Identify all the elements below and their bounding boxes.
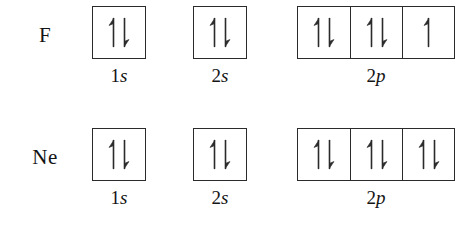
orbital-boxes — [193, 6, 247, 59]
orbital-label-2s: 2s — [193, 186, 247, 210]
electron-pair — [351, 7, 402, 58]
orbital-cell — [194, 7, 246, 58]
spin-down-arrow-icon — [220, 139, 231, 170]
orbital-cell — [93, 7, 145, 58]
orbital-cell — [350, 7, 402, 58]
orbital-label-2s: 2s — [193, 64, 247, 88]
orbital-cell — [298, 7, 350, 58]
orbital-principal-number: 1 — [111, 65, 121, 86]
orbital-group-1s-f: 1s — [92, 6, 146, 59]
spin-up-arrow-icon — [209, 139, 220, 170]
orbital-cell — [402, 129, 454, 180]
orbital-principal-number: 2 — [367, 65, 377, 86]
electron-pair — [93, 7, 145, 58]
spin-down-arrow-icon — [119, 139, 130, 170]
spin-down-arrow-icon — [220, 17, 231, 48]
electron-single — [403, 7, 454, 58]
orbital-group-2s-ne: 2s — [193, 128, 247, 181]
orbital-principal-number: 2 — [212, 187, 222, 208]
electron-pair — [351, 129, 402, 180]
orbital-group-1s-ne: 1s — [92, 128, 146, 181]
orbital-cell — [350, 129, 402, 180]
orbital-filling-diagram: F 1s 2s — [0, 0, 474, 245]
orbital-boxes — [297, 6, 455, 59]
orbital-cell — [402, 7, 454, 58]
spin-down-arrow-icon — [377, 17, 388, 48]
electron-pair — [298, 129, 350, 180]
orbital-label-1s: 1s — [92, 186, 146, 210]
spin-up-arrow-icon — [366, 139, 377, 170]
orbital-principal-number: 1 — [111, 187, 121, 208]
orbital-boxes — [92, 6, 146, 59]
orbital-row-ne: Ne 1s 2s — [0, 128, 474, 228]
spin-up-arrow-icon — [418, 139, 429, 170]
spin-up-arrow-icon — [423, 17, 434, 48]
orbital-subshell-letter: s — [221, 187, 228, 208]
orbital-subshell-letter: p — [376, 65, 386, 86]
spin-up-arrow-icon — [313, 139, 324, 170]
spin-up-arrow-icon — [366, 17, 377, 48]
orbital-group-2s-f: 2s — [193, 6, 247, 59]
spin-down-arrow-icon — [324, 139, 335, 170]
orbital-subshell-letter: s — [221, 65, 228, 86]
spin-up-arrow-icon — [209, 17, 220, 48]
orbital-label-2p: 2p — [297, 64, 455, 88]
orbital-boxes — [92, 128, 146, 181]
electron-pair — [194, 7, 246, 58]
orbital-cell — [93, 129, 145, 180]
electron-pair — [403, 129, 454, 180]
orbital-principal-number: 2 — [367, 187, 377, 208]
orbital-subshell-letter: s — [120, 65, 127, 86]
orbital-boxes — [297, 128, 455, 181]
spin-up-arrow-icon — [108, 17, 119, 48]
electron-pair — [93, 129, 145, 180]
electron-pair — [194, 129, 246, 180]
element-symbol-ne: Ne — [10, 144, 80, 170]
spin-up-arrow-icon — [108, 139, 119, 170]
spin-down-arrow-icon — [324, 17, 335, 48]
orbital-principal-number: 2 — [212, 65, 222, 86]
orbital-cell — [194, 129, 246, 180]
spin-down-arrow-icon — [119, 17, 130, 48]
spin-down-arrow-icon — [377, 139, 388, 170]
orbital-label-1s: 1s — [92, 64, 146, 88]
electron-pair — [298, 7, 350, 58]
orbital-group-2p-f: 2p — [297, 6, 455, 59]
orbital-boxes — [193, 128, 247, 181]
spin-up-arrow-icon — [313, 17, 324, 48]
orbital-cell — [298, 129, 350, 180]
orbital-subshell-letter: s — [120, 187, 127, 208]
spin-down-arrow-icon — [429, 139, 440, 170]
orbital-label-2p: 2p — [297, 186, 455, 210]
orbital-subshell-letter: p — [376, 187, 386, 208]
orbital-row-f: F 1s 2s — [0, 6, 474, 106]
orbital-group-2p-ne: 2p — [297, 128, 455, 181]
element-symbol-f: F — [10, 22, 80, 48]
